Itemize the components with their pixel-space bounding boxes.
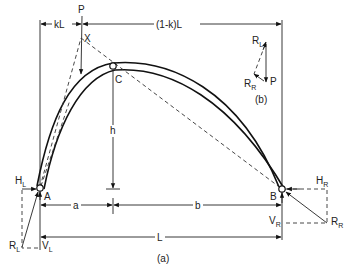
- one-minus-k-l-label: (1-k)L: [156, 19, 183, 30]
- load-p-arrow: [81, 16, 82, 74]
- force-polygon: RL RR P: [244, 35, 277, 91]
- h-label: h: [110, 125, 116, 136]
- r-r-arrow: [286, 192, 327, 223]
- arch-outer-curve: [37, 63, 279, 187]
- kl-label: kL: [54, 19, 65, 30]
- hinge-a-label: A: [44, 191, 51, 202]
- a-label: a: [73, 200, 79, 211]
- thrust-line-right: [81, 38, 282, 189]
- load-p-label: P: [78, 4, 85, 15]
- hinge-b-label: B: [270, 191, 277, 202]
- hinge-c: [110, 63, 116, 69]
- three-hinged-arch-diagram: kL (1-k)L P X C A B h a b L HL RL VL HR …: [0, 0, 346, 268]
- r-l-arrow: [22, 192, 38, 247]
- force-polygon-rr-arrow: [254, 74, 264, 81]
- hinge-a: [37, 185, 43, 191]
- force-polygon-rr-label: RR: [244, 78, 256, 91]
- r-r-label: RR: [331, 216, 343, 229]
- thrust-line-left: [40, 38, 81, 187]
- v-r-label: VR: [269, 215, 281, 228]
- h-r-label: HR: [316, 175, 328, 188]
- b-label: b: [195, 200, 201, 211]
- h-l-label: HL: [15, 175, 26, 188]
- caption-b: (b): [255, 94, 267, 105]
- caption-a: (a): [157, 253, 169, 264]
- arch-center-dash: [41, 100, 70, 186]
- hinge-c-label: C: [115, 74, 122, 85]
- r-l-label: RL: [9, 240, 20, 253]
- force-polygon-p-label: P: [270, 76, 277, 87]
- v-l-label: VL: [42, 240, 53, 253]
- hinge-b: [279, 186, 285, 192]
- force-polygon-rl-label: RL: [252, 35, 263, 48]
- l-label: L: [157, 232, 163, 243]
